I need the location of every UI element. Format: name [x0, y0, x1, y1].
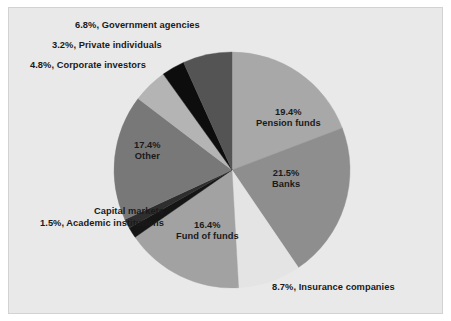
label-government-agencies: 6.8%, Government agencies	[75, 20, 200, 31]
label-pension-funds-value: 19.4%	[256, 107, 321, 118]
label-insurance-companies: 8.7%, Insurance companies	[272, 282, 395, 293]
label-banks-name: Banks	[272, 179, 300, 190]
label-corporate-investors: 4.8%, Corporate investors	[30, 60, 146, 71]
label-pension-funds-name: Pension funds	[256, 118, 321, 129]
label-fund-of-funds: 16.4% Fund of funds	[176, 220, 239, 243]
label-capital-markets: Capital markets	[26, 206, 164, 217]
label-fund-of-funds-name: Fund of funds	[176, 231, 239, 242]
label-banks: 21.5% Banks	[272, 168, 300, 191]
pie-chart-figure: 19.4% Pension funds 21.5% Banks 8.7%, In…	[0, 0, 451, 321]
label-other: 17.4% Other	[134, 140, 161, 163]
label-other-name: Other	[134, 151, 161, 162]
label-banks-value: 21.5%	[272, 168, 300, 179]
pie-slices-group	[114, 52, 350, 288]
label-pension-funds: 19.4% Pension funds	[256, 107, 321, 130]
label-other-value: 17.4%	[134, 140, 161, 151]
label-fund-of-funds-value: 16.4%	[176, 220, 239, 231]
label-academic-institutions: 1.5%, Academic institutions	[10, 218, 164, 229]
chart-plot-area: 19.4% Pension funds 21.5% Banks 8.7%, In…	[0, 0, 451, 321]
label-private-individuals: 3.2%, Private individuals	[52, 40, 162, 51]
